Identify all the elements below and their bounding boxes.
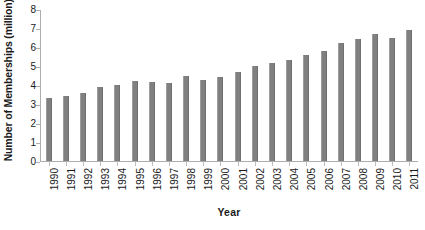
x-tick-label: 1991 [66, 168, 78, 208]
bar [97, 87, 103, 161]
bar [321, 51, 327, 161]
x-tick-label: 2005 [306, 168, 318, 208]
x-axis-title: Year [40, 206, 418, 218]
x-tick-label: 1994 [117, 168, 129, 208]
x-tick-label: 2007 [341, 168, 353, 208]
x-tick-label: 2001 [238, 168, 250, 208]
y-tick-label: 8 [18, 5, 36, 15]
bar [63, 96, 69, 161]
y-axis-title: Number of Memberships (million) [0, 0, 16, 160]
bar [269, 63, 275, 161]
x-tick-label: 2000 [220, 168, 232, 208]
x-tick-label: 2011 [409, 168, 421, 208]
x-tick-label: 1995 [135, 168, 147, 208]
x-axis-tick-labels: 1990199119921993199419951996199719981999… [40, 164, 418, 204]
bar-chart-figure: Number of Memberships (million) 01234567… [0, 0, 425, 230]
plot-area [40, 10, 418, 162]
y-tick-label: 7 [18, 24, 36, 34]
x-tick-label: 2008 [358, 168, 370, 208]
bar [166, 83, 172, 161]
bar [183, 76, 189, 162]
y-axis-title-text: Number of Memberships (million) [3, 0, 14, 161]
x-tick-label: 2004 [289, 168, 301, 208]
x-tick-label: 2006 [324, 168, 336, 208]
bar [132, 81, 138, 161]
bar [338, 43, 344, 161]
x-tick-label: 1990 [49, 168, 61, 208]
x-tick-label: 1997 [169, 168, 181, 208]
x-tick-label: 1992 [83, 168, 95, 208]
y-tick-label: 0 [18, 157, 36, 167]
bar [303, 55, 309, 161]
x-tick-label: 1999 [203, 168, 215, 208]
bar [252, 66, 258, 161]
y-axis-tick-labels: 012345678 [18, 10, 36, 162]
y-tick-label: 5 [18, 62, 36, 72]
bar [200, 80, 206, 161]
y-tick-label: 1 [18, 138, 36, 148]
bar [389, 38, 395, 162]
x-tick-label: 2002 [255, 168, 267, 208]
bar [355, 39, 361, 161]
x-tick-label: 2010 [392, 168, 404, 208]
bar [286, 60, 292, 161]
bar [46, 98, 52, 161]
bar [80, 93, 86, 161]
bars-layer [40, 10, 418, 162]
y-tick-mark [36, 162, 40, 163]
x-tick-label: 2009 [375, 168, 387, 208]
bar [217, 77, 223, 161]
bar [114, 85, 120, 161]
bar [149, 82, 155, 161]
y-tick-label: 4 [18, 81, 36, 91]
y-tick-label: 2 [18, 119, 36, 129]
bar [235, 72, 241, 161]
y-tick-label: 6 [18, 43, 36, 53]
x-tick-label: 1998 [186, 168, 198, 208]
x-tick-label: 1996 [152, 168, 164, 208]
x-tick-label: 1993 [100, 168, 112, 208]
bar [372, 34, 378, 161]
y-tick-label: 3 [18, 100, 36, 110]
x-tick-label: 2003 [272, 168, 284, 208]
bar [406, 30, 412, 161]
